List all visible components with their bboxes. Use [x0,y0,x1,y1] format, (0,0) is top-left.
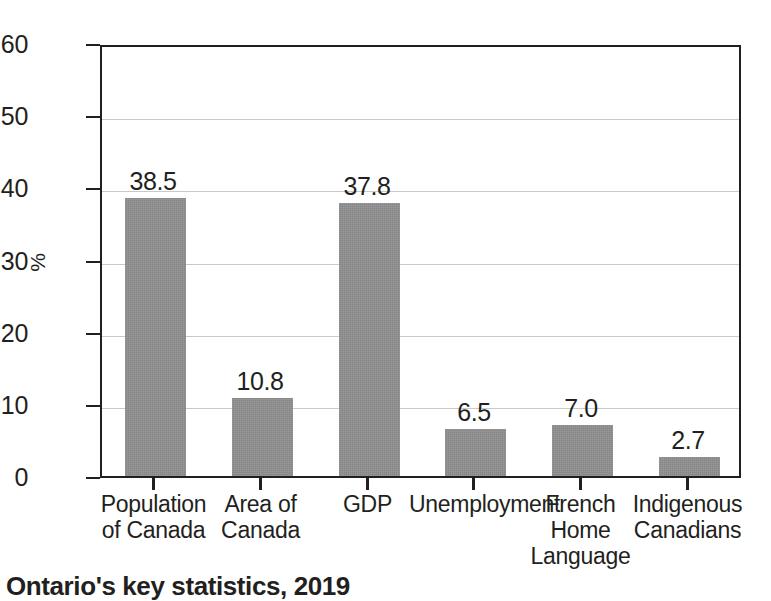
bar [552,425,613,476]
bar [445,429,506,476]
bar-value-label: 2.7 [643,428,733,453]
x-tick-mark [686,478,689,490]
bar [659,457,720,476]
gridline [102,264,739,265]
plot-area [100,45,741,478]
y-tick-label: 10 [1,393,28,418]
y-tick-label: 0 [14,465,28,490]
y-tick-label: 40 [1,176,28,201]
y-tick-mark [86,333,100,335]
bar [232,398,293,476]
y-axis-title: % [27,253,48,272]
y-tick-mark [86,188,100,190]
bar [125,198,186,476]
bar [339,203,400,476]
bar-value-label: 7.0 [536,396,626,421]
y-tick-label: 20 [1,321,28,346]
gridline [102,119,739,120]
gridline [102,408,739,409]
x-tick-mark [259,478,262,490]
x-tick-mark [152,478,155,490]
bar-value-label: 37.8 [322,174,412,199]
bar-value-label: 38.5 [108,169,198,194]
y-tick-mark [86,261,100,263]
y-tick-mark [86,44,100,46]
y-axis: 0102030405060 [0,0,100,590]
y-tick-mark [86,405,100,407]
y-tick-mark [86,477,100,479]
y-tick-label: 60 [1,32,28,57]
bar-value-label: 6.5 [429,400,519,425]
gridline [102,336,739,337]
x-tick-mark [472,478,475,490]
y-tick-label: 30 [1,249,28,274]
y-tick-mark [86,116,100,118]
x-tick-mark [579,478,582,490]
x-category-label: Indigenous Canadians [622,491,753,543]
chart-caption: Ontario's key statistics, 2019 [6,571,350,601]
x-tick-mark [366,478,369,490]
bar-value-label: 10.8 [215,369,305,394]
y-tick-label: 50 [1,104,28,129]
